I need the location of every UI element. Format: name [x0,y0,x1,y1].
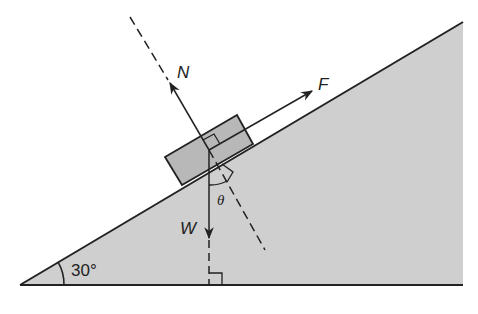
applied-force-label: F [318,75,330,94]
normal-force-label: N [177,63,190,82]
inclined-plane-diagram: 30° N F W θ [0,0,478,314]
weight-force-label: W [180,219,198,238]
theta-label: θ [217,192,225,208]
normal-line-dashed-top [130,17,168,80]
incline-angle-label: 30° [71,261,97,280]
